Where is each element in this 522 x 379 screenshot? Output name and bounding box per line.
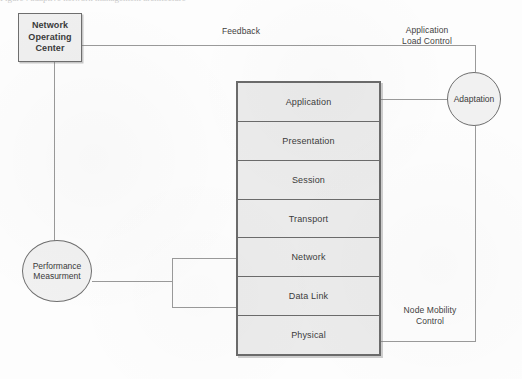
node-mobility-control-line2: Control <box>385 316 475 327</box>
feedback-edge-label: Feedback <box>196 26 286 37</box>
layer-session-label: Session <box>292 175 325 185</box>
performance-label-block: Performance Measurment <box>33 261 82 282</box>
layer-data-link[interactable]: Data Link <box>238 277 379 316</box>
layer-network[interactable]: Network <box>238 238 379 277</box>
application-load-control-line1: Application <box>380 25 474 36</box>
layer-transport[interactable]: Transport <box>238 200 379 239</box>
feedback-edge-label-text: Feedback <box>222 26 260 36</box>
layer-application[interactable]: Application <box>238 83 379 122</box>
noc-label-line3: Center <box>28 43 71 55</box>
noc-label-block: Network Operating Center <box>28 20 71 55</box>
application-load-control-edge-label: Application Load Control <box>380 25 474 47</box>
adaptation-node[interactable]: Adaptation <box>447 72 501 126</box>
node-mobility-control-line1: Node Mobility <box>385 305 475 316</box>
layer-physical[interactable]: Physical <box>238 316 379 354</box>
noc-label-line2: Operating <box>28 32 71 44</box>
layer-presentation[interactable]: Presentation <box>238 122 379 161</box>
noc-label-line1: Network <box>28 20 71 32</box>
osi-protocol-stack: Application Presentation Session Transpo… <box>236 81 381 356</box>
network-operating-center-box[interactable]: Network Operating Center <box>18 13 82 62</box>
layer-transport-label: Transport <box>289 214 329 224</box>
layer-physical-label: Physical <box>291 330 326 340</box>
performance-label-line2: Measurment <box>33 271 82 282</box>
node-mobility-control-edge-label: Node Mobility Control <box>385 305 475 327</box>
adaptation-label: Adaptation <box>454 94 495 105</box>
layer-application-label: Application <box>286 97 332 107</box>
layer-network-label: Network <box>291 252 325 262</box>
wire-feedback <box>82 45 475 72</box>
performance-measurement-node[interactable]: Performance Measurment <box>22 240 92 302</box>
layer-session[interactable]: Session <box>238 161 379 200</box>
layer-presentation-label: Presentation <box>282 136 334 146</box>
performance-label-line1: Performance <box>33 261 82 272</box>
application-load-control-line2: Load Control <box>380 36 474 47</box>
layer-data-link-label: Data Link <box>289 291 328 301</box>
diagram-canvas: Figure : adaptive network management arc… <box>0 0 522 379</box>
